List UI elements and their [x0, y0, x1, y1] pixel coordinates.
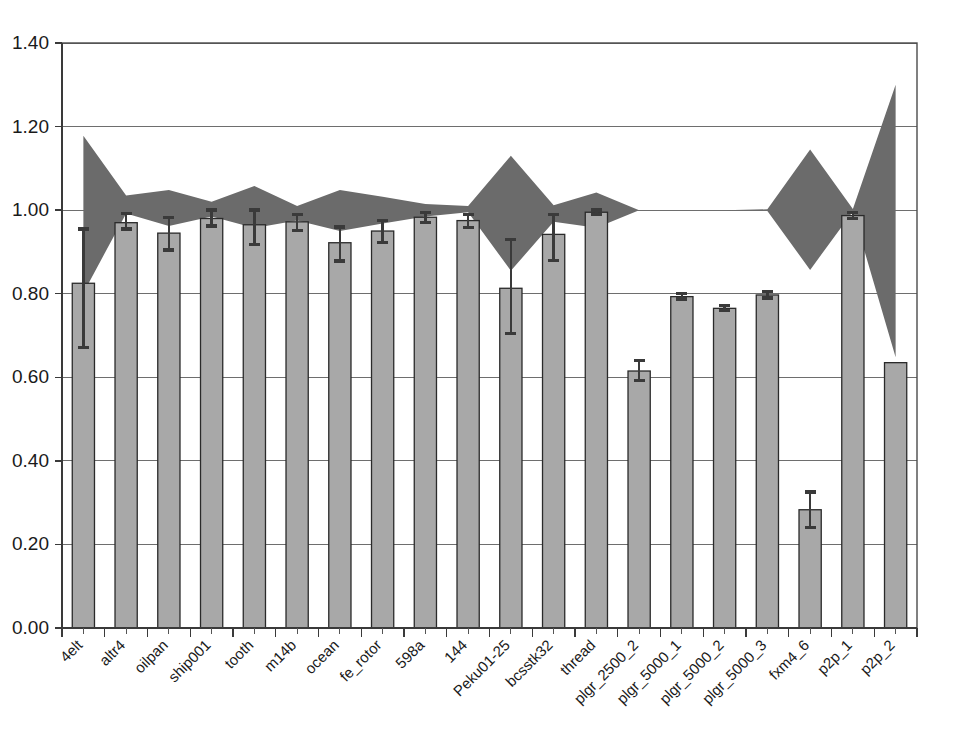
bar-ocean — [329, 243, 351, 628]
y-axis-tick-labels: 0.000.200.400.600.801.001.201.40 — [12, 32, 49, 638]
bar-fe_rotor — [372, 231, 394, 628]
x-tick-label-altr4: altr4 — [96, 636, 129, 669]
gridlines — [62, 43, 917, 544]
x-tick-label-144: 144 — [441, 636, 471, 666]
y-tick-label: 0.20 — [12, 533, 49, 554]
bars — [72, 212, 906, 628]
y-tick-label: 1.40 — [12, 32, 49, 53]
x-tick-label-tooth: tooth — [221, 636, 257, 672]
x-tick-label-4elt: 4elt — [56, 636, 86, 666]
y-tick-label: 1.20 — [12, 116, 49, 137]
x-tick-label-ocean: ocean — [301, 636, 342, 677]
bar-chart-with-range-band: 0.000.200.400.600.801.001.201.40 4eltalt… — [0, 0, 957, 746]
x-tick-label-bcsstk32: bcsstk32 — [502, 636, 556, 690]
axes — [55, 43, 917, 637]
y-tick-label: 0.60 — [12, 366, 49, 387]
bar-plgr_5000_3 — [756, 295, 778, 628]
bar-p2p_1 — [842, 216, 864, 628]
y-tick-label: 0.40 — [12, 450, 49, 471]
bar-tooth — [243, 225, 265, 628]
y-tick-label: 1.00 — [12, 199, 49, 220]
x-tick-label-fe_rotor: fe_rotor — [336, 636, 385, 685]
bar-Peku01-25 — [500, 288, 522, 628]
bar-plgr_5000_2 — [714, 308, 736, 628]
bar-altr4 — [115, 223, 137, 628]
x-tick-label-598a: 598a — [392, 636, 428, 672]
plot-area-border — [62, 43, 917, 628]
x-tick-label-ship001: ship001 — [165, 636, 214, 685]
bar-bcsstk32 — [543, 234, 565, 628]
bar-ship001 — [201, 219, 223, 629]
y-tick-label: 0.00 — [12, 617, 49, 638]
bar-m14b — [286, 222, 308, 628]
bar-plgr_2500_2 — [628, 371, 650, 628]
x-tick-label-p2p_2: p2p_2 — [856, 636, 898, 678]
bar-144 — [457, 221, 479, 628]
chart-container: 0.000.200.400.600.801.001.201.40 4eltalt… — [0, 0, 957, 746]
bar-oilpan — [158, 233, 180, 628]
x-tick-label-oilpan: oilpan — [131, 636, 171, 676]
bar-598a — [414, 217, 436, 628]
x-tick-label-p2p_1: p2p_1 — [813, 636, 855, 678]
x-tick-label-m14b: m14b — [261, 636, 300, 675]
bar-thread — [585, 212, 607, 628]
bar-p2p_2 — [885, 363, 907, 628]
x-tick-label-fxm4_6: fxm4_6 — [765, 636, 812, 683]
bar-plgr_5000_1 — [671, 297, 693, 628]
x-axis-tick-labels: 4eltaltr4oilpanship001toothm14boceanfe_r… — [56, 636, 897, 708]
y-tick-label: 0.80 — [12, 283, 49, 304]
